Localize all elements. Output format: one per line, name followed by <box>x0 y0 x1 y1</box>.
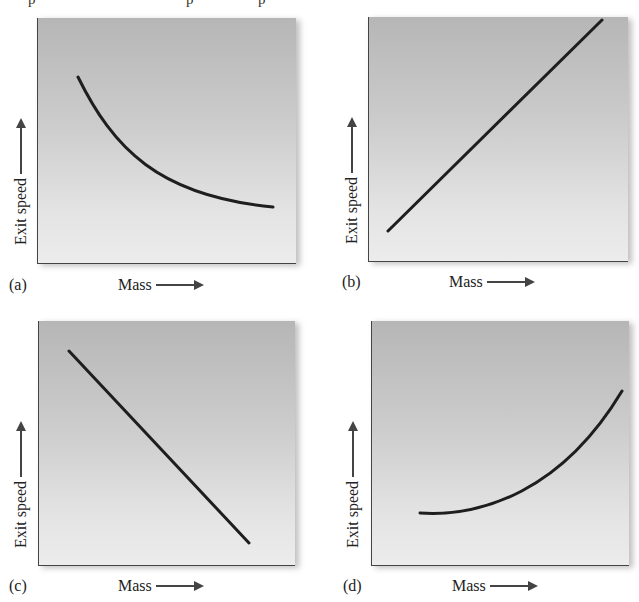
y-axis-label: Exit speed <box>343 119 361 244</box>
plot-area <box>38 321 295 566</box>
y-axis-label: Exit speed <box>344 423 362 548</box>
y-axis-label-text: Exit speed <box>343 177 361 244</box>
curve-decreasing-hyperbolic <box>38 18 296 263</box>
line-increasing-linear <box>369 17 628 261</box>
x-axis-label-text: Mass <box>118 577 152 595</box>
y-axis-label-text: Exit speed <box>12 178 30 245</box>
curve-increasing-parabolic <box>372 321 629 565</box>
x-axis-label: Mass <box>452 577 536 595</box>
cropped-text-fragment: p <box>28 0 36 3</box>
y-axis-label: Exit speed <box>12 120 30 245</box>
x-axis-label: Mass <box>449 273 533 291</box>
y-axis-label: Exit speed <box>12 423 30 548</box>
panel-tag: (c) <box>9 577 27 595</box>
right-arrow-icon <box>156 585 202 587</box>
right-arrow-icon <box>490 585 536 587</box>
right-arrow-icon <box>156 284 202 286</box>
up-arrow-icon <box>20 120 22 174</box>
panel-tag: (a) <box>9 276 27 294</box>
up-arrow-icon <box>20 423 22 477</box>
cropped-text-fragment: p <box>258 0 266 3</box>
y-axis-label-text: Exit speed <box>12 481 30 548</box>
up-arrow-icon <box>351 119 353 173</box>
plot-area <box>371 321 629 566</box>
x-axis-label: Mass <box>118 276 202 294</box>
x-axis-label: Mass <box>118 577 202 595</box>
line-decreasing-linear <box>39 321 295 565</box>
up-arrow-icon <box>352 423 354 477</box>
right-arrow-icon <box>487 281 533 283</box>
cropped-text-fragment: p <box>186 0 194 3</box>
x-axis-label-text: Mass <box>452 577 486 595</box>
panel-tag: (b) <box>342 273 361 291</box>
panel-tag: (d) <box>343 577 362 595</box>
y-axis-label-text: Exit speed <box>344 481 362 548</box>
plot-area <box>368 17 628 262</box>
x-axis-label-text: Mass <box>449 273 483 291</box>
plot-area <box>37 18 296 264</box>
x-axis-label-text: Mass <box>118 276 152 294</box>
